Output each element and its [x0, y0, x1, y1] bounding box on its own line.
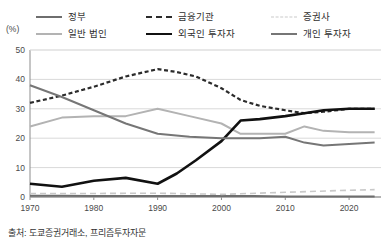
legend-label-securities-firms: 증권사	[303, 11, 330, 22]
chart-axes	[30, 50, 381, 200]
chart-figure: 정부 금융기관 증권사 일반 법인 외국인 투자자 개인 투자자	[0, 0, 387, 244]
legend-swatch-general-corporations	[36, 29, 62, 39]
series-line-외국인 투자자	[30, 109, 375, 187]
y-tick-30: 30	[16, 104, 26, 114]
x-tick-2020: 2020	[340, 203, 359, 213]
legend-item-individual-investors: 개인 투자자	[271, 25, 381, 42]
chart-series-layer	[30, 69, 375, 196]
x-tick-2000: 2000	[212, 203, 231, 213]
chart-plot-area: 01020304050 197019801990200020102020	[0, 44, 387, 219]
legend-item-government: 정부	[36, 8, 146, 25]
legend-label-general-corporations: 일반 법인	[68, 28, 107, 39]
legend-label-foreign-investors: 외국인 투자자	[178, 28, 235, 39]
legend-label-individual-investors: 개인 투자자	[303, 28, 351, 39]
legend-swatch-securities-firms	[271, 12, 297, 22]
y-tick-40: 40	[16, 74, 26, 84]
legend-item-securities-firms: 증권사	[271, 8, 381, 25]
y-tick-10: 10	[16, 163, 26, 173]
legend-row-1: 정부 금융기관 증권사	[36, 8, 381, 25]
x-tick-1990: 1990	[148, 203, 167, 213]
x-tick-2010: 2010	[276, 203, 295, 213]
legend-item-general-corporations: 일반 법인	[36, 25, 146, 42]
x-tick-1980: 1980	[84, 203, 103, 213]
legend-swatch-foreign-investors	[146, 29, 172, 39]
y-tick-50: 50	[16, 45, 26, 55]
legend-swatch-individual-investors	[271, 29, 297, 39]
chart-legend: 정부 금융기관 증권사 일반 법인 외국인 투자자 개인 투자자	[36, 8, 381, 42]
series-line-정부	[30, 196, 375, 197]
legend-swatch-financial-institutions	[146, 12, 172, 22]
series-line-금융기관	[30, 69, 375, 113]
legend-item-foreign-investors: 외국인 투자자	[146, 25, 271, 42]
y-tick-0: 0	[20, 192, 25, 202]
series-line-개인 투자자	[30, 85, 375, 145]
y-axis-unit-label: (%)	[6, 24, 19, 34]
legend-item-financial-institutions: 금융기관	[146, 8, 271, 25]
chart-svg: 01020304050 197019801990200020102020	[0, 44, 387, 219]
legend-swatch-government	[36, 12, 62, 22]
x-tick-1970: 1970	[21, 203, 40, 213]
legend-label-government: 정부	[68, 11, 86, 22]
legend-row-2: 일반 법인 외국인 투자자 개인 투자자	[36, 25, 381, 42]
y-tick-20: 20	[16, 133, 26, 143]
source-note: 출처: 도쿄증권거래소, 프리즘투자자문	[8, 226, 146, 239]
legend-label-financial-institutions: 금융기관	[178, 11, 214, 22]
series-line-증권사	[30, 190, 375, 195]
y-axis-tick-labels: 01020304050	[16, 45, 26, 202]
x-axis-tick-labels: 197019801990200020102020	[21, 203, 359, 213]
